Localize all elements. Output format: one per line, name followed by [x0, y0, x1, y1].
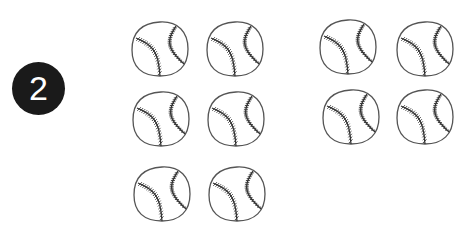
baseball-icon: [205, 20, 265, 78]
baseball-icon: [130, 20, 190, 78]
baseball-icon: [131, 90, 191, 148]
baseball-icon: [132, 165, 192, 223]
baseball-icon: [321, 88, 381, 146]
problem-number-badge: 2: [12, 62, 65, 115]
baseball-icon: [318, 18, 378, 76]
baseball-icon: [207, 165, 267, 223]
baseball-icon: [395, 88, 455, 146]
baseball-icon: [395, 20, 455, 78]
baseball-icon: [206, 90, 266, 148]
problem-number: 2: [29, 69, 48, 108]
